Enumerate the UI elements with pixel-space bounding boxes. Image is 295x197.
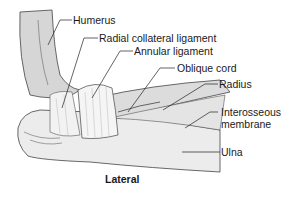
label-humerus: Humerus xyxy=(73,14,116,26)
humerus-bone xyxy=(20,10,80,98)
label-interosseous-line1: Interosseous xyxy=(221,106,281,118)
label-radius: Radius xyxy=(219,78,252,90)
label-ulna: Ulna xyxy=(221,146,243,158)
label-oblique-cord: Oblique cord xyxy=(177,62,237,74)
elbow-ligaments-diagram: Humerus Radial collateral ligament Annul… xyxy=(0,0,295,197)
elbow-joint-illustration xyxy=(0,0,295,197)
label-annular-ligament: Annular ligament xyxy=(134,45,213,57)
label-interosseous-line2: membrane xyxy=(221,118,281,130)
view-caption: Lateral xyxy=(105,173,139,185)
label-interosseous-membrane: Interosseous membrane xyxy=(221,106,281,130)
annular-ligament-shape xyxy=(78,84,118,138)
label-radial-collateral-ligament: Radial collateral ligament xyxy=(99,32,216,44)
